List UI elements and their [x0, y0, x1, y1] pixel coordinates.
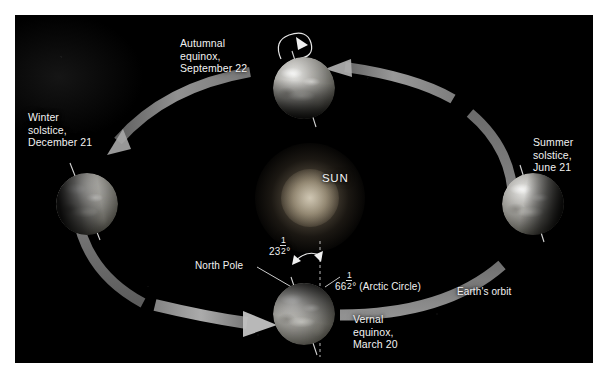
axial-tilt-fraction: 12	[280, 236, 286, 255]
label-arctic-circle: 6612° (Arctic Circle)	[335, 271, 421, 293]
orbit-arrowhead-bottom	[243, 311, 277, 337]
label-vernal-equinox: Vernal equinox, March 20	[353, 313, 398, 351]
earth-seasons-diagram: SUN Autumnal equinox, September 22 Winte…	[0, 0, 608, 380]
arctic-suffix: (Arctic Circle)	[356, 281, 420, 292]
label-north-pole: North Pole	[195, 260, 243, 272]
axial-tilt-value: 23	[269, 246, 280, 257]
label-winter-solstice: Winter solstice, December 21	[28, 111, 92, 149]
earth-terminator-shadow	[502, 173, 564, 235]
space-background-panel: SUN Autumnal equinox, September 22 Winte…	[15, 15, 593, 363]
earth-terminator-shadow	[273, 283, 335, 345]
earth-autumnal-equinox	[273, 57, 335, 119]
earth-vernal-equinox	[273, 283, 335, 345]
axial-tilt-degree-sign: °	[286, 246, 290, 257]
sun-label: SUN	[322, 172, 348, 185]
label-summer-solstice: Summer solstice, June 21	[533, 136, 573, 174]
axial-tilt-denominator: 2	[280, 246, 286, 255]
earth-winter-solstice	[56, 173, 118, 235]
label-autumnal-equinox: Autumnal equinox, September 22	[180, 37, 247, 75]
earth-rotation-arrow	[278, 33, 311, 59]
earth-summer-solstice	[502, 173, 564, 235]
earth-terminator-shadow	[56, 173, 118, 235]
earth-terminator-shadow	[273, 57, 335, 119]
arctic-value: 66	[335, 281, 346, 292]
label-earths-orbit: Earth's orbit	[457, 286, 511, 298]
label-axial-tilt: 2312°	[269, 236, 290, 258]
arctic-numerator: 1	[346, 271, 352, 281]
arctic-fraction: 12	[346, 271, 352, 290]
arctic-denominator: 2	[346, 281, 352, 290]
axial-tilt-numerator: 1	[280, 236, 286, 246]
